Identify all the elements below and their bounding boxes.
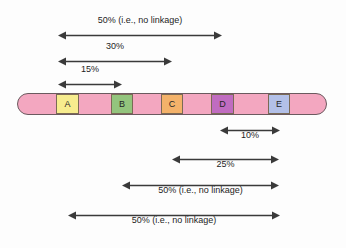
gene-label: C xyxy=(169,99,176,109)
gene-box-d: D xyxy=(211,94,234,114)
distance-label-b-to-e: 50% (i.e., no linkage) xyxy=(122,185,279,195)
gene-label: D xyxy=(219,99,226,109)
distance-label-a-to-c: 30% xyxy=(58,41,172,51)
gene-box-b: B xyxy=(111,94,133,114)
distance-label-a-to-d: 50% (i.e., no linkage) xyxy=(58,15,222,25)
distance-label-c-to-e: 25% xyxy=(172,159,279,169)
distance-arrow-a-to-d xyxy=(58,31,222,40)
linkage-map-figure: ABCDE 50% (i.e., no linkage)30%15%10%25%… xyxy=(0,0,346,248)
gene-box-c: C xyxy=(161,94,183,114)
chromosome-bar: ABCDE xyxy=(17,93,327,115)
distance-label-a-to-e: 50% (i.e., no linkage) xyxy=(68,215,280,225)
distance-label-a-to-b: 15% xyxy=(58,64,122,74)
gene-label: A xyxy=(64,99,70,109)
gene-label: B xyxy=(119,99,125,109)
distance-label-d-to-e: 10% xyxy=(220,130,280,140)
gene-label: E xyxy=(276,99,282,109)
gene-box-e: E xyxy=(268,94,290,114)
distance-arrow-a-to-b xyxy=(58,80,122,89)
gene-box-a: A xyxy=(56,94,79,114)
